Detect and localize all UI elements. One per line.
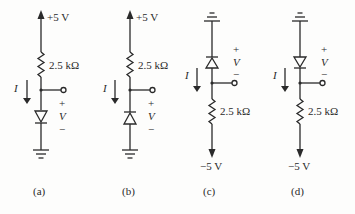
node-dot — [128, 88, 131, 91]
caption-b: (b) — [122, 186, 135, 197]
circuit-c — [197, 13, 237, 158]
caption-c: (c) — [203, 186, 215, 197]
current-label-b: I — [103, 83, 107, 94]
ground-icon — [33, 150, 49, 158]
supply-arrow-icon — [127, 10, 134, 19]
caption-d: (d) — [291, 186, 304, 197]
supply-arrow-icon — [209, 149, 216, 158]
resistor-label-c: 2.5 kΩ — [220, 106, 250, 117]
node-dot — [298, 81, 301, 84]
resistor-label-a: 2.5 kΩ — [49, 60, 79, 71]
current-label-d: I — [273, 70, 277, 81]
circuit-b — [115, 10, 155, 158]
output-terminal-icon — [232, 81, 237, 86]
resistor-icon — [297, 99, 303, 124]
caption-a: (a) — [33, 186, 45, 197]
ground-icon — [122, 150, 138, 158]
minus-label-c: − — [233, 69, 239, 80]
supply-arrow-icon — [38, 10, 45, 19]
output-terminal-icon — [61, 88, 66, 93]
resistor-label-b: 2.5 kΩ — [138, 60, 168, 71]
voltage-label-d: V — [321, 57, 328, 68]
output-terminal-icon — [320, 81, 325, 86]
resistor-icon — [38, 52, 44, 77]
voltage-label-b: V — [148, 111, 155, 122]
diode-icon — [35, 111, 47, 122]
diode-icon — [294, 57, 306, 67]
supply-label-c: −5 V — [200, 161, 222, 172]
ground-icon — [204, 13, 220, 21]
current-label-c: I — [185, 70, 189, 81]
minus-label-b: − — [148, 124, 154, 135]
output-terminal-icon — [150, 88, 155, 93]
supply-label-d: −5 V — [288, 161, 310, 172]
plus-label-b: + — [148, 98, 154, 109]
diode-circuits-figure: +5 V 2.5 kΩ I + V − (a) +5 V 2.5 kΩ I + … — [0, 0, 355, 214]
plus-label-c: + — [233, 44, 239, 55]
supply-label-b: +5 V — [136, 12, 158, 23]
diode-icon — [206, 58, 218, 68]
voltage-label-c: V — [233, 57, 240, 68]
node-dot — [210, 81, 213, 84]
resistor-icon — [209, 99, 215, 124]
current-label-a: I — [14, 83, 18, 94]
plus-label-d: + — [321, 44, 327, 55]
circuit-a — [27, 10, 66, 158]
minus-label-d: − — [321, 69, 327, 80]
supply-label-a: +5 V — [47, 12, 69, 23]
voltage-label-a: V — [59, 111, 66, 122]
resistor-label-d: 2.5 kΩ — [308, 106, 338, 117]
minus-label-a: − — [59, 124, 65, 135]
supply-arrow-icon — [297, 149, 304, 158]
circuit-drawing — [0, 0, 355, 214]
ground-icon — [292, 13, 308, 21]
node-dot — [39, 88, 42, 91]
diode-icon — [124, 113, 136, 124]
resistor-icon — [127, 52, 133, 77]
plus-label-a: + — [59, 98, 65, 109]
circuit-d — [285, 13, 325, 158]
